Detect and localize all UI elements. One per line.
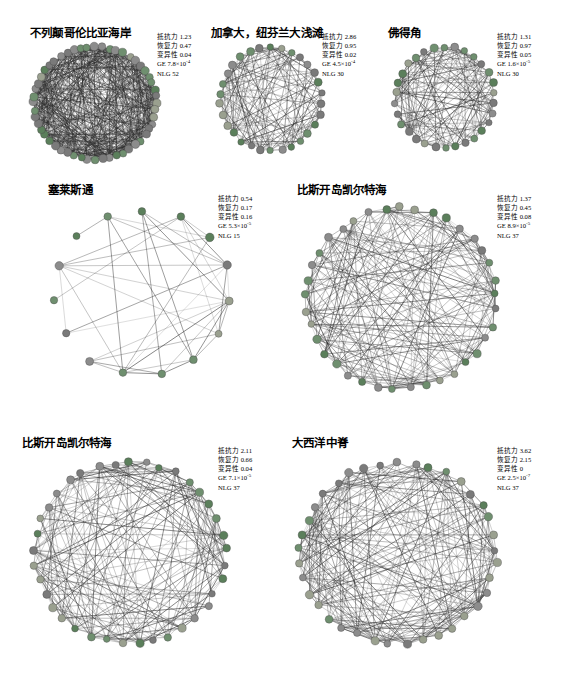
metric-ge-exponent: -5 — [526, 59, 530, 64]
figure-sheet: 不列颠哥伦比亚海岸 抵抗力 1.23 恢复力 0.47 变异性 0.04 GE … — [0, 0, 571, 698]
panel-title-biscay-celtic-sea-upper: 比斯开岛凯尔特海 — [297, 181, 387, 197]
metric-ge-exponent: -5 — [526, 221, 530, 226]
network-graph-celestun — [43, 198, 243, 388]
network-graph-british-columbia-coast — [25, 38, 165, 168]
metric-ge-exponent: -4 — [186, 59, 190, 64]
metric-ge-exponent: -5 — [247, 473, 251, 478]
metric-ge-exponent: -7 — [526, 473, 530, 478]
metric-ge-exponent: -4 — [351, 59, 355, 64]
network-graph-biscay-celtic-sea-lower — [22, 450, 237, 655]
network-graph-mid-atlantic-ridge — [288, 450, 508, 655]
metric-ge-exponent: -5 — [247, 221, 251, 226]
panel-title-biscay-celtic-sea-lower: 比斯开岛凯尔特海 — [22, 434, 112, 450]
panel-title-mid-atlantic-ridge: 大西洋中脊 — [292, 434, 348, 450]
panel-title-celestun: 塞莱斯通 — [48, 181, 93, 197]
network-graph-canada-newfoundland-grand-banks — [211, 38, 331, 160]
network-graph-biscay-celtic-sea-upper — [293, 196, 508, 401]
network-graph-cape-verde — [386, 38, 504, 158]
